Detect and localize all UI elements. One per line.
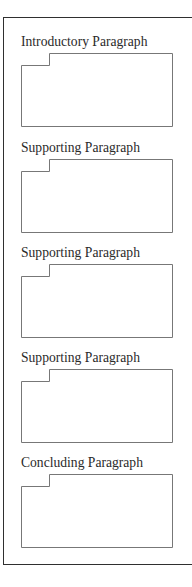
section-label: Supporting Paragraph (21, 141, 140, 155)
section-label: Introductory Paragraph (21, 35, 147, 49)
section-label: Concluding Paragraph (21, 456, 143, 470)
indented-paragraph-shape (21, 53, 173, 127)
indented-paragraph-shape (21, 369, 173, 443)
indented-paragraph-shape (21, 474, 173, 548)
paragraph-box (21, 369, 173, 443)
section-label: Supporting Paragraph (21, 246, 140, 260)
paragraph-box (21, 53, 173, 127)
paragraph-box (21, 159, 173, 233)
indented-paragraph-shape (21, 264, 173, 338)
paragraph-box (21, 474, 173, 548)
section-label: Supporting Paragraph (21, 351, 140, 365)
indented-paragraph-shape (21, 159, 173, 233)
paragraph-box (21, 264, 173, 338)
